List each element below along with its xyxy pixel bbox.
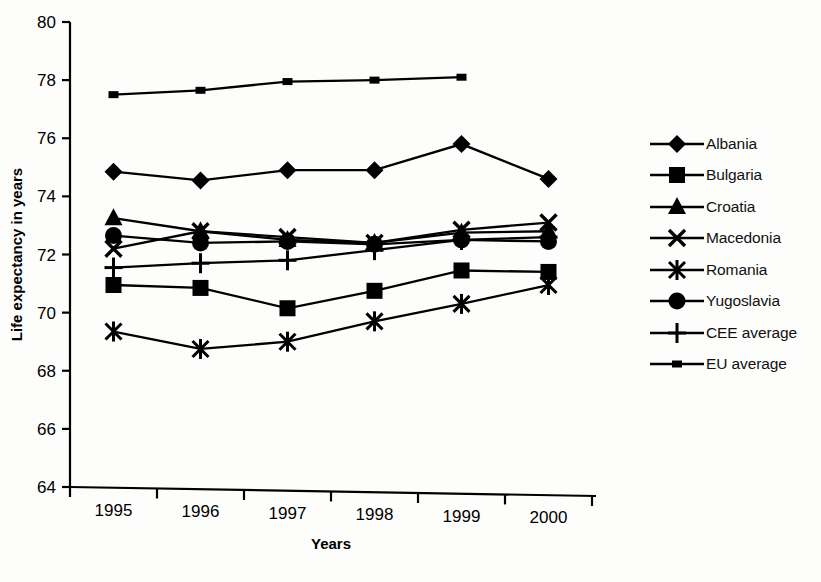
legend-label: Yugoslavia: [706, 292, 780, 310]
marker-triangle: [668, 197, 686, 214]
legend-symbol-x-icon: [648, 227, 706, 249]
x-tick-label: 1996: [182, 502, 220, 521]
marker-dash: [109, 91, 119, 98]
series-line: [114, 223, 549, 249]
legend-glyph: [650, 323, 704, 343]
legend-label: EU average: [706, 355, 787, 373]
y-axis-title: Life expectancy in years: [8, 168, 25, 341]
marker-circle: [669, 293, 686, 310]
legend-glyph: [650, 197, 704, 214]
legend-item-bulgaria[interactable]: Bulgaria: [648, 160, 821, 192]
legend-glyph: [650, 167, 704, 183]
legend-symbol-diamond-icon: [648, 133, 706, 155]
marker-circle: [279, 233, 296, 250]
marker-square: [454, 262, 470, 278]
x-axis-line: [70, 487, 596, 496]
y-tick-label: 70: [37, 304, 56, 323]
y-tick-label: 80: [37, 13, 56, 32]
marker-dash: [672, 361, 682, 368]
marker-diamond: [668, 135, 686, 153]
y-tick-label: 76: [37, 129, 56, 148]
marker-square: [106, 277, 122, 293]
marker-circle: [192, 234, 209, 251]
plot-svg: 6466687072747678801995199619971998199920…: [0, 0, 660, 582]
legend-item-eu-average[interactable]: EU average: [648, 349, 821, 381]
marker-square: [367, 283, 383, 299]
marker-dash: [196, 87, 206, 94]
series-macedonia: [106, 215, 557, 257]
x-tick-label: 1998: [356, 505, 394, 524]
legend-label: Bulgaria: [706, 166, 762, 184]
legend-symbol-circle-icon: [648, 290, 706, 312]
marker-diamond: [366, 161, 384, 179]
y-tick-label: 68: [37, 362, 56, 381]
legend-glyph: [650, 293, 704, 310]
series-line: [114, 285, 549, 349]
legend-glyph: [650, 260, 704, 280]
legend-label: Romania: [706, 261, 767, 279]
legend-symbol-triangle-icon: [648, 196, 706, 218]
x-tick-label: 2000: [530, 508, 568, 527]
legend-label: Macedonia: [706, 229, 781, 247]
marker-dash: [283, 78, 293, 85]
marker-diamond: [540, 170, 558, 188]
series-albania: [105, 135, 558, 189]
y-tick-label: 72: [37, 246, 56, 265]
marker-dash: [457, 74, 467, 81]
marker-diamond: [279, 161, 297, 179]
marker-diamond: [192, 171, 210, 189]
legend-symbol-asterisk-icon: [648, 259, 706, 281]
marker-square: [669, 167, 685, 183]
legend-item-romania[interactable]: Romania: [648, 254, 821, 286]
chart-screenshot: 6466687072747678801995199619971998199920…: [0, 0, 821, 582]
legend-item-croatia[interactable]: Croatia: [648, 191, 821, 223]
y-tick-label: 64: [37, 478, 56, 497]
marker-dash: [370, 77, 380, 84]
x-tick-label: 1995: [95, 501, 133, 520]
legend-label: Croatia: [706, 198, 755, 216]
series-line: [114, 144, 549, 180]
marker-square: [280, 300, 296, 316]
legend-glyph: [650, 135, 704, 153]
legend-item-albania[interactable]: Albania: [648, 128, 821, 160]
legend-glyph: [650, 230, 704, 246]
x-tick-label: 1999: [443, 507, 481, 526]
series-eu-average: [109, 74, 467, 98]
line-chart: 6466687072747678801995199619971998199920…: [0, 0, 660, 582]
legend-label: Albania: [706, 135, 757, 153]
x-tick-label: 1997: [269, 504, 307, 523]
legend-symbol-square-icon: [648, 164, 706, 186]
y-tick-label: 66: [37, 420, 56, 439]
marker-diamond: [105, 163, 123, 181]
series-bulgaria: [106, 262, 557, 316]
chart-legend: AlbaniaBulgariaCroatiaMacedoniaRomaniaYu…: [648, 128, 821, 380]
legend-item-cee-average[interactable]: CEE average: [648, 317, 821, 349]
marker-circle: [105, 227, 122, 244]
legend-item-yugoslavia[interactable]: Yugoslavia: [648, 286, 821, 318]
series-line: [114, 270, 549, 308]
x-axis-title: Years: [311, 535, 351, 552]
legend-glyph: [650, 361, 704, 368]
marker-diamond: [453, 135, 471, 153]
legend-label: CEE average: [706, 324, 797, 342]
legend-item-macedonia[interactable]: Macedonia: [648, 223, 821, 255]
marker-triangle: [105, 208, 123, 225]
marker-square: [193, 280, 209, 296]
legend-symbol-plus-icon: [648, 322, 706, 344]
legend-symbol-dash-icon: [648, 353, 706, 375]
y-tick-label: 78: [37, 71, 56, 90]
y-tick-label: 74: [37, 187, 56, 206]
